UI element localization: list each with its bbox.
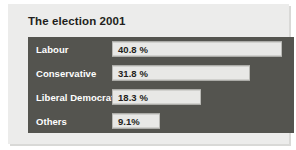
bar-value-conservative: 31.8 % — [118, 68, 148, 79]
chart-card: The election 2001 Labour 40.8 % Conserva… — [8, 4, 289, 144]
bar-track-conservative: 31.8 % — [112, 66, 250, 81]
bar-value-others: 9.1% — [118, 116, 140, 127]
bar-fill-liberal-democrats: 18.3 % — [112, 90, 201, 105]
bar-label-conservative: Conservative — [36, 68, 96, 79]
table-row: Conservative 31.8 % — [28, 61, 294, 85]
bar-track-liberal-democrats: 18.3 % — [112, 90, 201, 105]
table-row: Labour 40.8 % — [28, 37, 294, 61]
bar-fill-others: 9.1% — [112, 114, 160, 129]
bar-label-liberal-democrats: Liberal Democrats — [36, 92, 120, 103]
table-row: Others 9.1% — [28, 109, 294, 133]
election-results-figure: The election 2001 Labour 40.8 % Conserva… — [0, 0, 296, 150]
bar-label-others: Others — [36, 116, 67, 127]
page-title: The election 2001 — [28, 15, 126, 27]
bar-value-liberal-democrats: 18.3 % — [118, 92, 148, 103]
bar-label-labour: Labour — [36, 44, 69, 55]
bar-chart-panel: Labour 40.8 % Conservative 31.8 % Libera… — [28, 37, 294, 133]
table-row: Liberal Democrats 18.3 % — [28, 85, 294, 109]
bar-value-labour: 40.8 % — [118, 44, 148, 55]
bar-track-others: 9.1% — [112, 114, 160, 129]
bar-fill-labour: 40.8 % — [112, 42, 282, 57]
bar-track-labour: 40.8 % — [112, 42, 282, 57]
bar-fill-conservative: 31.8 % — [112, 66, 250, 81]
